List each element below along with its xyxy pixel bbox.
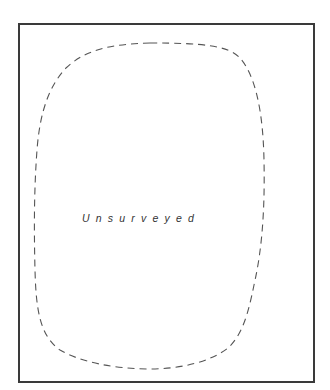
unsurveyed-region-boundary [0,0,330,390]
unsurveyed-region-label: Unsurveyed [82,212,200,224]
